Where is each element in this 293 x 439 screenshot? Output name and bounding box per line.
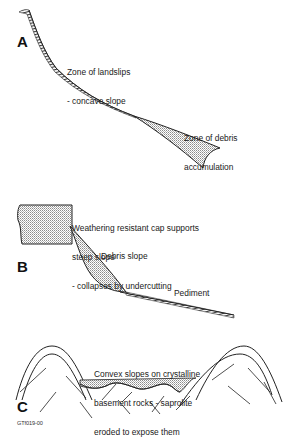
resistant-cap-block [18, 205, 72, 244]
annotation-line: Zone of landslips [67, 68, 130, 78]
panel-label-a: A [17, 33, 28, 50]
left-hill-inner-profile [22, 354, 86, 400]
annotation-line: Weathering resistant cap supports [72, 224, 199, 234]
annotation-debris-slope: Debris slope [101, 252, 148, 262]
figure-code: GTf019-00 [17, 420, 43, 426]
annotation-landslip-zone: Zone of landslips - concave slope [67, 49, 130, 116]
panel-label-b: B [17, 258, 28, 275]
annotation-line: accumulation [184, 163, 238, 173]
annotation-pediment: Pediment [174, 289, 209, 299]
annotation-line: eroded to expose them [94, 428, 200, 438]
annotation-line: Convex slopes on crystalline [94, 370, 200, 380]
annotation-debris-accumulation: Zone of debris accumulation [184, 115, 238, 182]
annotation-line: Zone of debris [184, 134, 238, 144]
annotation-line: - concave slope [67, 97, 130, 107]
panel-label-c: C [17, 398, 28, 415]
annotation-line: basement rocks - saprolite [94, 399, 200, 409]
annotation-convex-slopes: Convex slopes on crystalline basement ro… [94, 351, 200, 439]
